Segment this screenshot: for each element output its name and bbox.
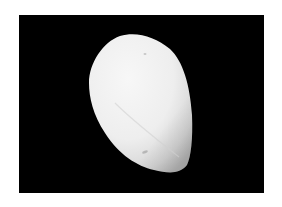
seed-photo [19,15,264,193]
seed-kernel [89,34,192,172]
photo-frame: A single white oval seed kernel photogra… [19,15,264,193]
